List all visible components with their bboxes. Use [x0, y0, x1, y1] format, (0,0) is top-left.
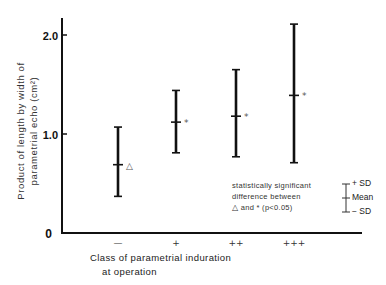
legend-symbol: [342, 184, 350, 212]
x-tick-labels: —++++++: [114, 238, 306, 248]
asterisk-marker-icon: *: [184, 118, 189, 128]
y-axis-label-line1: Product of length by width of: [14, 46, 27, 216]
asterisk-marker-icon: *: [302, 91, 307, 101]
legend-mean: Mean: [352, 192, 373, 202]
annotation-line1: statistically significant: [232, 180, 311, 191]
x-tick-label: +: [172, 238, 180, 248]
y-tick-label: 1.0: [43, 129, 58, 141]
triangle-marker-icon: △: [126, 161, 133, 171]
legend-plus-sd: + SD: [352, 178, 371, 188]
x-axis-label: Class of parametrial induration at opera…: [90, 251, 231, 279]
error-bar: *: [231, 70, 249, 157]
chart-canvas: 01.02.0 △*** —++++++: [0, 0, 386, 285]
error-bar: *: [289, 24, 307, 163]
y-axis-label: Product of length by width of parametria…: [14, 46, 40, 216]
annotation-line2: difference between: [232, 191, 311, 202]
y-tick-label: 2.0: [43, 30, 58, 42]
x-axis-label-line2: at operation: [90, 265, 231, 279]
x-tick-label: —: [114, 238, 123, 248]
significance-annotation: statistically significant difference bet…: [232, 180, 311, 213]
y-tick-label: 0: [45, 227, 52, 241]
error-bars: △***: [113, 24, 307, 196]
x-tick-label: ++: [228, 238, 243, 248]
y-ticks: 01.02.0: [43, 30, 67, 241]
asterisk-marker-icon: *: [244, 112, 249, 122]
error-bar: △: [113, 127, 133, 196]
legend-minus-sd: − SD: [352, 206, 371, 216]
annotation-line3: △ and * (p<0.05): [232, 202, 311, 213]
x-tick-label: +++: [283, 238, 306, 248]
error-bar: *: [171, 90, 189, 152]
y-axis-label-line2: parametrial echo (cm²): [27, 46, 40, 216]
x-axis-label-line1: Class of parametrial induration: [90, 252, 231, 263]
